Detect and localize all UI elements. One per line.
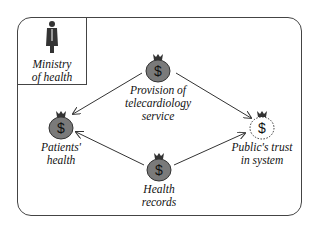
label-line: Public's trust <box>222 141 302 154</box>
label-line: Provision of <box>118 84 198 97</box>
label-line: health <box>28 154 94 167</box>
money-bag-outline-icon: $ <box>249 110 275 140</box>
label-line: service <box>118 110 198 123</box>
label-line: in system <box>222 154 302 167</box>
svg-text:$: $ <box>155 162 163 178</box>
money-bag-icon: $ <box>145 53 171 83</box>
records-label: Health records <box>124 183 194 209</box>
trust-label: Public's trust in system <box>222 141 302 167</box>
label-line: telecardiology <box>118 97 198 110</box>
svg-text:$: $ <box>258 120 266 136</box>
provision-label: Provision of telecardiology service <box>118 84 198 123</box>
money-bag-icon: $ <box>48 110 74 140</box>
label-line: records <box>124 196 194 209</box>
money-bag-icon: $ <box>146 152 172 182</box>
svg-text:$: $ <box>154 63 162 79</box>
label-line: Patients' <box>28 141 94 154</box>
svg-text:$: $ <box>57 120 65 136</box>
label-line: Health <box>124 183 194 196</box>
patients-label: Patients' health <box>28 141 94 167</box>
